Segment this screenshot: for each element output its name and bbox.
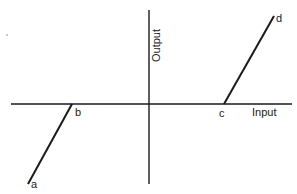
y-axis-label: Output — [150, 29, 162, 62]
x-axis-label: Input — [252, 106, 276, 118]
segment-c-d — [224, 16, 274, 104]
speck-mark — [6, 34, 8, 36]
point-label-d: d — [276, 12, 282, 24]
segment-a-b — [28, 104, 72, 184]
dead-zone-diagram: Output Input a b c d — [0, 0, 297, 194]
point-label-a: a — [31, 178, 38, 190]
point-label-c: c — [219, 107, 225, 119]
point-label-b: b — [75, 106, 81, 118]
